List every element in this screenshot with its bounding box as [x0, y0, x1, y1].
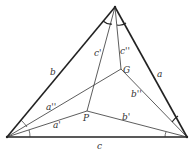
vertex-left: [6, 136, 8, 138]
label-c-double-prime: c'': [120, 46, 130, 56]
segment-b-prime: [87, 111, 187, 137]
angle-arc-left-upper: [21, 120, 27, 127]
label-c-prime: c': [94, 48, 102, 58]
vertex-top: [114, 6, 116, 8]
label-b-prime: b': [122, 112, 130, 122]
label-b-double-prime: b'': [131, 89, 142, 99]
label-side-c: c: [97, 141, 102, 151]
label-side-a: a: [157, 69, 162, 79]
vertex-right: [186, 136, 188, 138]
label-P: P: [82, 113, 90, 123]
segment-b-double-prime: [121, 69, 187, 137]
label-G: G: [123, 65, 130, 75]
triangle-diagram: b a c c' c'' G b'' a'' P a' b': [0, 0, 193, 151]
label-a-prime: a': [53, 120, 61, 130]
segment-a-prime: [7, 111, 87, 137]
angle-arc-left-lower: [29, 130, 30, 137]
label-side-b: b: [50, 67, 56, 77]
side-b: [7, 7, 115, 137]
label-a-double-prime: a'': [46, 102, 56, 112]
segment-a-double-prime: [7, 69, 121, 137]
